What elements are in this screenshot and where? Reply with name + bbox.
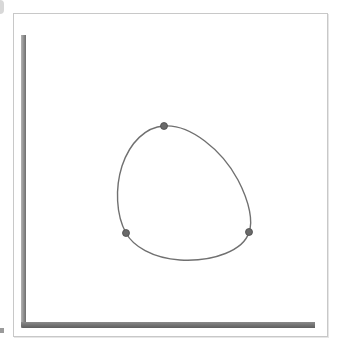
- control-point-right[interactable]: [246, 229, 253, 236]
- control-point-left[interactable]: [123, 230, 130, 237]
- closed-curve: [117, 126, 250, 260]
- control-point-top[interactable]: [161, 123, 168, 130]
- plot-area: [0, 0, 341, 339]
